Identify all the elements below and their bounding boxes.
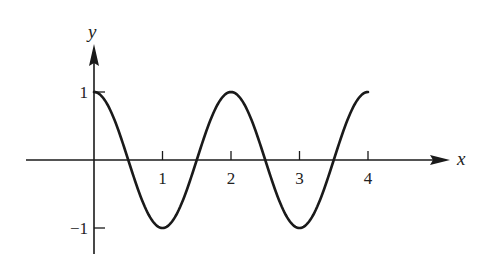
y-tick-label: 1 [80, 83, 89, 102]
y-axis-arrow-icon [89, 44, 99, 66]
x-tick-label: 4 [364, 169, 373, 188]
x-axis-arrow-icon [430, 155, 450, 165]
cosine-graph: 12341−1 x y [0, 0, 494, 254]
x-axis-label: x [456, 148, 466, 169]
x-tick-label: 2 [227, 169, 236, 188]
y-axis-label: y [86, 21, 97, 42]
x-tick-label: 1 [158, 169, 167, 188]
x-tick-label: 3 [295, 169, 304, 188]
axes [26, 44, 450, 254]
y-tick-label: −1 [70, 219, 88, 238]
